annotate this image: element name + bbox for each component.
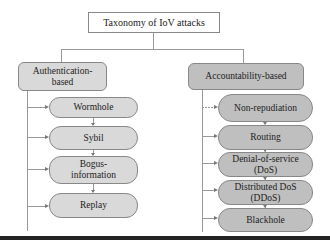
connector-horizontal xyxy=(61,49,244,50)
connector-to-right-category xyxy=(243,49,244,63)
right-trunk-line xyxy=(202,90,203,232)
node-label: Routing xyxy=(250,132,281,143)
branch-line xyxy=(202,107,214,108)
branch-line xyxy=(27,107,45,108)
connector-root-down xyxy=(153,33,154,50)
connector-to-left-category xyxy=(61,49,62,62)
node-label: Replay xyxy=(80,200,107,211)
left-trunk-line xyxy=(27,91,28,231)
node-blackhole: Blackhole xyxy=(218,208,313,232)
node-label: Sybil xyxy=(83,133,103,144)
branch-line xyxy=(27,206,45,207)
node-wormhole: Wormhole xyxy=(49,97,138,118)
node-label-line: information xyxy=(71,170,116,181)
bottom-rule xyxy=(0,236,330,240)
category-label-line: Authentication- xyxy=(33,66,93,77)
category-label-line: Accountability-based xyxy=(205,71,286,82)
node-distributed-dos: Distributed DoS (DDoS) xyxy=(218,180,313,205)
category-accountability-based: Accountability-based xyxy=(188,63,304,90)
node-bogus-information: Bogus- information xyxy=(49,156,138,184)
branch-line xyxy=(202,136,214,137)
node-label-line: Distributed DoS xyxy=(234,182,296,193)
root-label: Taxonomy of IoV attacks xyxy=(103,17,205,28)
root-node: Taxonomy of IoV attacks xyxy=(88,12,220,33)
branch-line xyxy=(27,137,45,138)
node-non-repudiation: Non-repudiation xyxy=(218,94,313,122)
branch-line xyxy=(202,163,214,164)
node-label: Wormhole xyxy=(74,102,114,113)
node-label-line: Bogus- xyxy=(71,159,116,170)
node-denial-of-service: Denial-of-service (DoS) xyxy=(218,152,313,177)
node-label: Non-repudiation xyxy=(234,103,297,114)
branch-line xyxy=(202,218,214,219)
category-authentication-based: Authentication- based xyxy=(18,62,107,91)
node-label: Blackhole xyxy=(246,215,285,226)
node-label-line: Denial-of-service xyxy=(232,154,298,165)
node-routing: Routing xyxy=(218,125,313,150)
node-replay: Replay xyxy=(49,193,138,218)
branch-line xyxy=(27,169,45,170)
branch-line xyxy=(202,190,214,191)
category-label-line: based xyxy=(33,77,93,88)
node-label-line: (DoS) xyxy=(232,165,298,176)
node-label-line: (DDoS) xyxy=(234,193,296,204)
node-sybil: Sybil xyxy=(49,126,138,150)
